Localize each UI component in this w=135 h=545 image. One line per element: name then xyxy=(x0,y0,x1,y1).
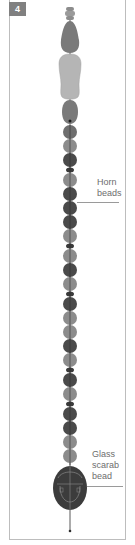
top-spacer-bead xyxy=(66,7,74,11)
horn-beads-label: Horn beads xyxy=(97,177,122,199)
top-spacer-bead xyxy=(66,16,74,20)
scarab-label-line2: scarab xyxy=(92,460,119,471)
scarab-label-line1: Glass xyxy=(92,449,119,460)
scarab-label: Glass scarab bead xyxy=(92,449,119,482)
top-spacer-bead xyxy=(65,11,75,16)
teardrop-pendant xyxy=(61,21,79,53)
thread-end xyxy=(69,530,72,533)
horn-leader-line xyxy=(77,202,119,203)
horn-label-line1: Horn xyxy=(97,177,122,188)
bottle-pendant xyxy=(59,54,81,99)
scarab-leader-line xyxy=(87,486,123,487)
scarab-label-line3: bead xyxy=(92,471,119,482)
horn-label-line2: beads xyxy=(97,188,122,199)
glass-scarab-bead xyxy=(53,466,87,510)
